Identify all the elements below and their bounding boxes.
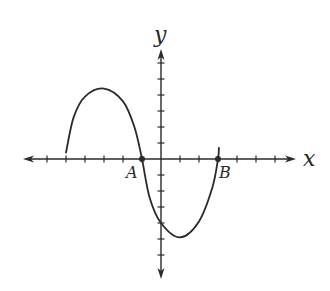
x-axis-label: x — [303, 146, 316, 171]
point-a-dot — [139, 156, 145, 162]
point-b-dot — [215, 156, 221, 162]
y-axis-label: y — [153, 22, 167, 47]
axes — [23, 49, 296, 279]
function-graph: x y A B — [0, 0, 330, 291]
point-b-label: B — [218, 163, 231, 182]
function-curve — [66, 88, 219, 237]
point-a-label: A — [124, 163, 138, 182]
